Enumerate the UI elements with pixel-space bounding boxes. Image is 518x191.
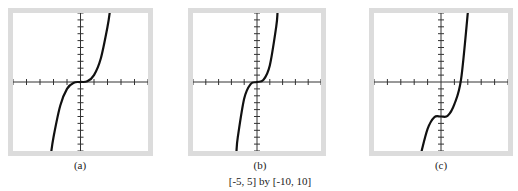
plot-frame-c (369, 8, 513, 156)
panel-label-a: (a) (60, 159, 100, 171)
plot-c (374, 13, 508, 151)
window-caption: [-5, 5] by [-10, 10] (210, 175, 330, 187)
plot-a (13, 13, 148, 151)
plot-frame-b (188, 8, 326, 156)
panel-label-c: (c) (421, 159, 461, 171)
axes (374, 13, 508, 151)
panel-label-b: (b) (240, 159, 280, 171)
plot-b (193, 13, 321, 151)
plot-frame-a (8, 8, 153, 156)
